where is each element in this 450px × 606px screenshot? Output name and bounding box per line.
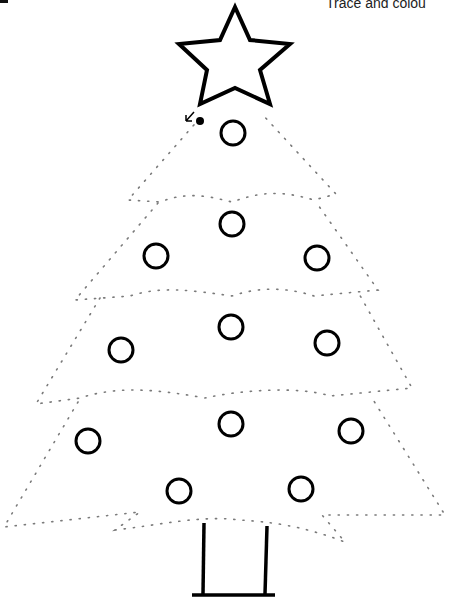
- ornament-circle: [76, 429, 100, 453]
- tree-trunk: [192, 523, 275, 595]
- tree-outline-dotted: [4, 114, 445, 542]
- start-marker: [186, 112, 204, 125]
- ornament-circle: [289, 477, 313, 501]
- ornament-circle: [305, 246, 329, 270]
- ornament-circle: [167, 479, 191, 503]
- ornament-circle: [219, 412, 243, 436]
- star-icon: [179, 7, 290, 104]
- ornament-circle: [109, 338, 133, 362]
- ornament-circle: [144, 244, 168, 268]
- ornament-circle: [315, 331, 339, 355]
- ornament-circle: [339, 419, 363, 443]
- ornaments: [76, 121, 363, 503]
- arrow-icon: [186, 112, 194, 121]
- ornament-circle: [221, 121, 245, 145]
- ornament-circle: [220, 212, 244, 236]
- christmas-tree-drawing: [0, 0, 450, 606]
- ornament-circle: [219, 315, 243, 339]
